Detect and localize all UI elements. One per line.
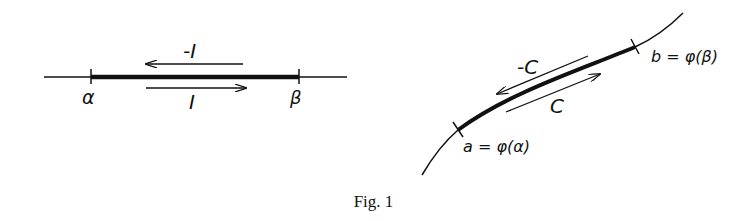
forward-label-c: C <box>550 94 564 118</box>
figure-canvas: α β -I I -C C a = φ(α) b = φ(β) <box>0 0 747 221</box>
forward-label: I <box>189 90 195 114</box>
start-point-label: a = φ(α) <box>463 137 530 156</box>
curve-segment <box>458 47 635 130</box>
interval-diagram: α β -I I <box>44 39 347 114</box>
end-point-label: b = φ(β) <box>651 47 718 66</box>
figure-caption: Fig. 1 <box>0 192 747 212</box>
beta-label: β <box>289 87 302 108</box>
reverse-arrow-c <box>497 56 588 94</box>
alpha-label: α <box>82 86 95 108</box>
reverse-label-c: -C <box>517 55 538 79</box>
reverse-label: -I <box>183 39 196 63</box>
curve-diagram: -C C a = φ(α) b = φ(β) <box>422 13 718 175</box>
